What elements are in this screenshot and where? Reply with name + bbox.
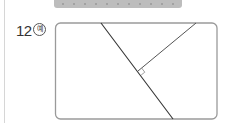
rectangle-shape — [56, 23, 218, 119]
geometry-figure — [0, 0, 228, 123]
